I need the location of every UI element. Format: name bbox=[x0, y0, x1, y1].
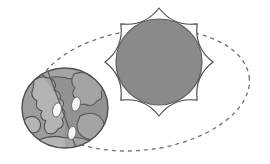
earth-group bbox=[20, 60, 120, 156]
sun-core bbox=[116, 19, 202, 105]
sun-group bbox=[105, 8, 213, 116]
diagram-canvas bbox=[0, 0, 270, 164]
orbit-diagram-svg bbox=[0, 0, 270, 164]
